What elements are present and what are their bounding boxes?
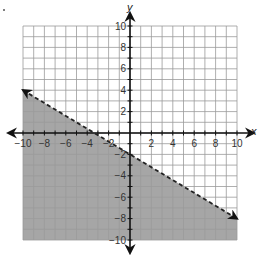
- x-tick-label: −2: [103, 138, 115, 149]
- y-tick-label: 10: [115, 21, 127, 32]
- y-tick-label: 4: [120, 85, 126, 96]
- x-tick-label: 2: [149, 138, 155, 149]
- inequality-graph: −10−8−6−4−2246810108642−2−4−6−8−10 x y: [0, 0, 262, 259]
- x-tick-label: −10: [15, 138, 32, 149]
- y-tick-label: −6: [115, 192, 127, 203]
- y-tick-label: −8: [115, 213, 127, 224]
- x-tick-label: −8: [39, 138, 51, 149]
- x-tick-label: 8: [213, 138, 219, 149]
- y-axis-label: y: [126, 1, 134, 13]
- x-axis-label: x: [250, 125, 257, 137]
- y-tick-label: −4: [115, 170, 127, 181]
- y-tick-label: 8: [120, 42, 126, 53]
- x-tick-label: −4: [81, 138, 93, 149]
- x-tick-label: 10: [231, 138, 243, 149]
- x-tick-label: −6: [60, 138, 72, 149]
- x-tick-label: 6: [191, 138, 197, 149]
- x-tick-label: 4: [170, 138, 176, 149]
- y-tick-label: −10: [109, 235, 126, 246]
- y-tick-label: 6: [120, 63, 126, 74]
- y-tick-label: 2: [120, 106, 126, 117]
- y-tick-label: −2: [115, 149, 127, 160]
